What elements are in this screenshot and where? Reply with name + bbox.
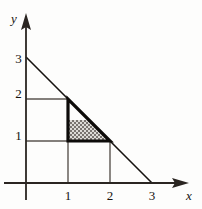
axes	[4, 22, 180, 200]
y-tick-label-3: 3	[13, 52, 24, 65]
x-tick-label-2: 2	[104, 189, 116, 202]
y-axis-label: y	[11, 12, 17, 25]
diagram-canvas	[0, 0, 202, 209]
y-tick-label-2: 2	[13, 87, 24, 100]
x-axis-label: x	[186, 189, 192, 202]
shaded-region	[68, 120, 110, 141]
x-tick-label-1: 1	[62, 189, 74, 202]
y-tick-label-1: 1	[13, 129, 24, 142]
x-tick-label-3: 3	[146, 189, 158, 202]
coordinate-diagram: y x 3 2 1 1 2 3	[0, 0, 202, 209]
